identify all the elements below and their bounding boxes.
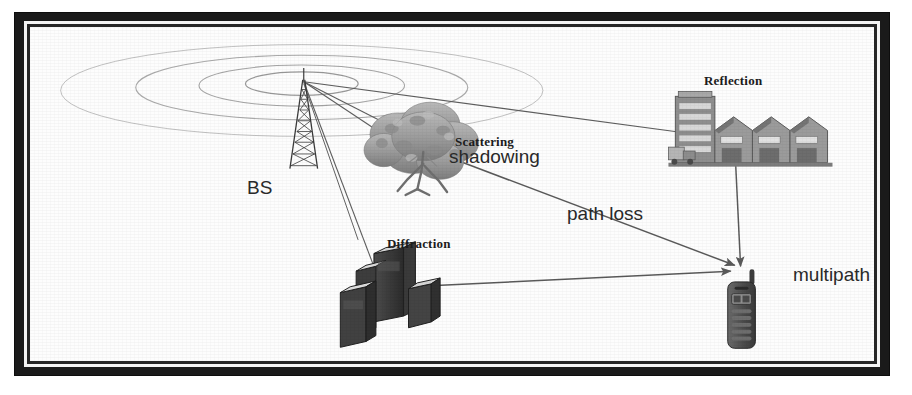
figure-canvas: BS Scattering shadowing Reflection Diffr… [0,0,912,395]
picture-frame-inner-line: BS Scattering shadowing Reflection Diffr… [27,24,877,364]
ray-reflection-to-handset [736,164,741,267]
label-diffraction: Diffraction [387,236,451,252]
propagation-paths [304,82,683,293]
label-shadowing: shadowing [449,146,540,168]
ray-bs-to-diffraction [304,82,384,293]
label-path-loss: path loss [567,203,643,225]
label-bs: BS [247,177,272,199]
mobile-phone-icon [728,269,756,348]
diagram-area: BS Scattering shadowing Reflection Diffr… [30,27,874,361]
city-block-icon [340,242,440,347]
ray-bs-to-diffraction-b [304,84,358,240]
label-reflection: Reflection [704,73,762,89]
factory-buildings-icon [668,91,832,166]
ray-bs-to-reflection [304,82,683,133]
picture-frame-mat: BS Scattering shadowing Reflection Diffr… [24,21,880,367]
picture-frame-outer: BS Scattering shadowing Reflection Diffr… [14,12,890,376]
label-multipath: multipath [793,264,870,286]
ray-diffraction-to-handset [430,271,730,286]
